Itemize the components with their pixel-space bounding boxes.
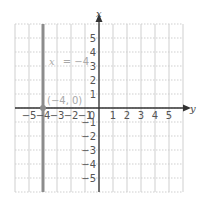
v-tick-label: −1 [81,117,96,128]
v-tick-label: 1 [90,89,96,100]
v-tick-label: 3 [90,61,96,72]
h-tick-label: 5 [166,110,172,121]
v-tick-label: 4 [90,47,96,58]
coordinate-plane: −5−4−3−2−101234554321−1−2−3−4−5 x y x = … [0,0,203,206]
point-marker [40,105,46,111]
h-tick-label: 2 [124,110,130,121]
vertical-axis-label: x [96,8,102,19]
h-tick-label: 3 [138,110,144,121]
h-tick-label: −5 [22,110,37,121]
h-tick-label: −4 [36,110,51,121]
axes [15,14,191,192]
v-tick-label: 2 [90,75,96,86]
line-equation-label: x = −4 [49,50,89,69]
h-tick-label: 1 [110,110,116,121]
h-tick-label: −2 [64,110,79,121]
v-tick-label: 5 [90,33,96,44]
v-tick-label: −5 [81,173,96,184]
v-tick-label: −4 [81,159,96,170]
v-tick-label: −3 [81,145,96,156]
v-tick-label: −2 [81,131,96,142]
point-label: (−4, 0) [47,95,82,106]
h-tick-label: 4 [152,110,158,121]
h-tick-label: −3 [50,110,65,121]
horizontal-axis-label: y [189,103,196,114]
